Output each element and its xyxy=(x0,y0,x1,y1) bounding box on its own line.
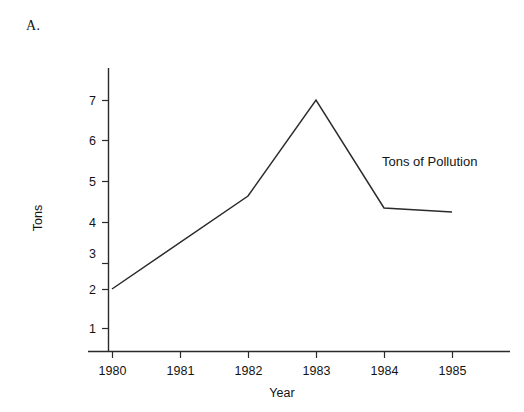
y-tick-label-2: 2 xyxy=(89,283,96,297)
x-tick-label-1981: 1981 xyxy=(167,364,195,378)
figure-panel: A. 7 6 5 4 3 2 1 xyxy=(0,0,524,412)
y-tick-label-3: 3 xyxy=(89,247,96,261)
y-tick-label-4: 4 xyxy=(89,216,96,230)
y-tick-label-1: 1 xyxy=(89,322,96,336)
x-axis-title: Year xyxy=(269,386,294,400)
x-tick-label-1984: 1984 xyxy=(371,364,399,378)
series-annotation-label: Tons of Pollution xyxy=(382,154,477,169)
line-chart: 7 6 5 4 3 2 1 1980 1981 1982 1983 1984 1… xyxy=(0,0,524,412)
x-tick-label-1980: 1980 xyxy=(99,364,127,378)
y-tick-label-6: 6 xyxy=(89,134,96,148)
x-tick-label-1982: 1982 xyxy=(235,364,263,378)
y-tick-label-7: 7 xyxy=(89,94,96,108)
data-series-tons-of-pollution xyxy=(112,100,452,289)
x-tick-label-1985: 1985 xyxy=(439,364,467,378)
x-axis-ticks xyxy=(113,352,453,359)
y-axis-title: Tons xyxy=(31,205,45,231)
y-tick-label-5: 5 xyxy=(89,175,96,189)
y-axis-ticks xyxy=(102,101,109,329)
x-tick-label-1983: 1983 xyxy=(303,364,331,378)
